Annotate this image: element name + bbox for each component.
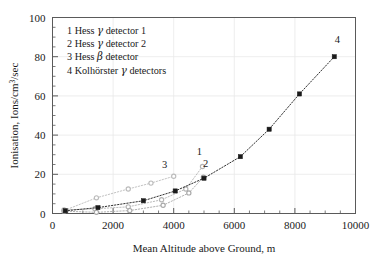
ytick-label: 100 bbox=[29, 12, 46, 24]
data-point bbox=[238, 155, 242, 159]
legend-key: 3 bbox=[67, 51, 75, 62]
series-line bbox=[65, 176, 174, 210]
ytick-label: 40 bbox=[35, 129, 47, 141]
legend-label-pre: Hess bbox=[75, 51, 97, 62]
legend-entry: 1 Hess γ detector 1 bbox=[67, 25, 146, 36]
data-series bbox=[62, 164, 205, 212]
xtick-label: 4000 bbox=[163, 219, 186, 231]
data-point bbox=[94, 196, 98, 200]
series-end-label: 4 bbox=[335, 34, 341, 45]
data-point bbox=[332, 55, 336, 59]
data-point bbox=[297, 92, 301, 96]
data-point bbox=[161, 203, 165, 207]
data-point bbox=[173, 189, 177, 193]
data-series bbox=[63, 55, 336, 213]
series-end-label: 3 bbox=[162, 159, 167, 170]
y-axis-title: Ionisation, Ions/cm3/sec bbox=[8, 62, 20, 168]
y-axis-title-tail: /sec bbox=[8, 62, 20, 79]
legend-entry: 2 Hess γ detector 2 bbox=[67, 38, 146, 49]
data-point bbox=[172, 174, 176, 178]
data-point bbox=[94, 210, 98, 214]
chart-canvas: 0200040006000800010000020406080100 1234 … bbox=[0, 0, 372, 272]
data-point bbox=[187, 191, 191, 195]
data-point bbox=[159, 198, 163, 202]
data-point bbox=[184, 187, 188, 191]
xtick-label: 6000 bbox=[223, 219, 246, 231]
legend-label-post: detector bbox=[103, 51, 139, 62]
data-series bbox=[63, 174, 176, 212]
y-axis-title-main: Ionisation, Ions/cm bbox=[8, 83, 20, 168]
ionisation-altitude-chart: 0200040006000800010000020406080100 1234 … bbox=[0, 0, 372, 272]
legend-label-post: detector 2 bbox=[103, 38, 146, 49]
data-point bbox=[96, 206, 100, 210]
series-labels: 1234 bbox=[162, 34, 341, 170]
data-point bbox=[141, 199, 145, 203]
legend-key: 4 bbox=[67, 65, 75, 76]
series-line bbox=[65, 57, 334, 211]
xtick-label: 0 bbox=[50, 219, 56, 231]
legend-label-post: detectors bbox=[127, 65, 166, 76]
legend-label-pre: Hess bbox=[75, 38, 97, 49]
data-point bbox=[126, 187, 130, 191]
legend-label-pre: Kolhörster bbox=[75, 65, 121, 76]
legend-entry: 4 Kolhörster γ detectors bbox=[67, 65, 166, 76]
series-line bbox=[64, 177, 203, 212]
xtick-label: 2000 bbox=[102, 219, 125, 231]
x-axis-title: Mean Altitude above Ground, m bbox=[133, 242, 276, 254]
data-point bbox=[128, 208, 132, 212]
data-point bbox=[149, 181, 153, 185]
xtick-label: 8000 bbox=[284, 219, 307, 231]
legend-key: 1 bbox=[67, 25, 75, 36]
legend-label-pre: Hess bbox=[75, 25, 97, 36]
ytick-label: 80 bbox=[35, 51, 47, 63]
ytick-label: 60 bbox=[35, 90, 47, 102]
xtick-label: 10000 bbox=[342, 219, 370, 231]
data-point bbox=[63, 209, 67, 213]
ytick-label: 0 bbox=[40, 208, 46, 220]
data-point bbox=[267, 127, 271, 131]
legend-entry: 3 Hess β detector bbox=[67, 51, 139, 62]
legend-key: 2 bbox=[67, 38, 75, 49]
series-end-label: 2 bbox=[203, 158, 208, 169]
legend: 1 Hess γ detector 12 Hess γ detector 23 … bbox=[67, 25, 166, 76]
series-end-label: 1 bbox=[197, 146, 202, 157]
data-series bbox=[62, 175, 206, 214]
ytick-label: 20 bbox=[35, 168, 47, 180]
data-point bbox=[202, 176, 206, 180]
legend-label-post: detector 1 bbox=[103, 25, 146, 36]
